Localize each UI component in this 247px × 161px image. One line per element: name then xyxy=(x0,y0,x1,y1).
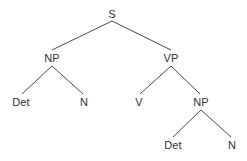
tree-edge-np1-n1 xyxy=(52,66,83,94)
tree-node-det2: Det xyxy=(164,140,182,151)
tree-edge-np2-det2 xyxy=(173,110,201,137)
tree-edges-layer xyxy=(0,0,247,161)
tree-edge-np2-n2 xyxy=(201,110,231,137)
tree-edge-vp-np2 xyxy=(171,66,200,94)
tree-node-v: V xyxy=(135,97,143,108)
tree-edge-s-np1 xyxy=(52,21,112,50)
syntax-tree-figure: SNPVPDetNVNPDetN xyxy=(0,0,247,161)
tree-node-vp: VP xyxy=(163,53,178,64)
tree-node-np2: NP xyxy=(193,97,209,108)
tree-node-s: S xyxy=(108,9,116,20)
tree-node-det1: Det xyxy=(12,97,30,108)
tree-edge-vp-v xyxy=(140,66,171,94)
tree-edge-s-vp xyxy=(112,21,171,50)
tree-node-np1: NP xyxy=(44,53,60,64)
tree-edge-np1-det1 xyxy=(22,66,52,94)
tree-node-n1: N xyxy=(80,97,88,108)
tree-node-n2: N xyxy=(228,140,236,151)
